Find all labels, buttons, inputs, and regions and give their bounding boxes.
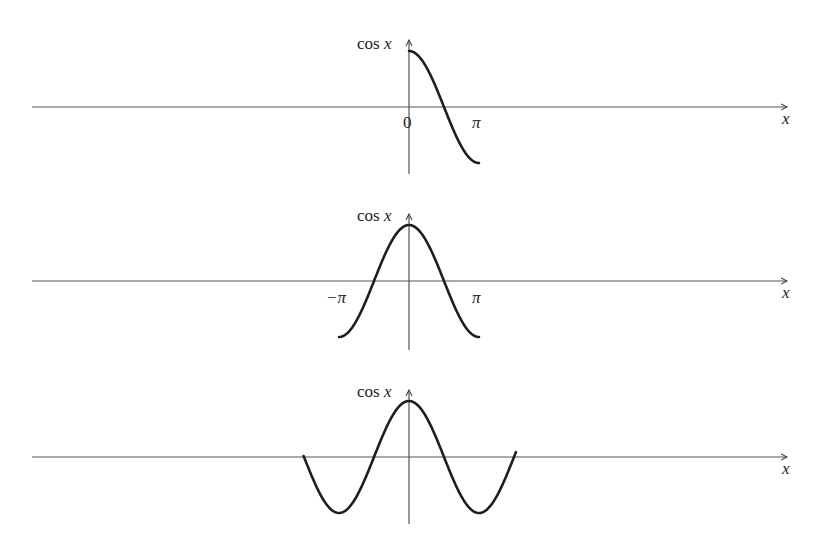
cosine-figure: cos x x 0 π cos x x −π π cos x x [0,0,828,550]
tick-label-pi: π [472,288,481,307]
x-axis-label: x [781,283,790,302]
x-axis-label: x [781,109,790,128]
panel-1: cos x x 0 π [32,34,790,174]
y-axis-label: cos x [357,206,392,225]
tick-label-neg-pi: −π [326,288,346,307]
tick-label-zero: 0 [403,113,412,132]
panel-2: cos x x −π π [32,206,790,350]
tick-label-pi: π [472,113,481,132]
y-axis-label: cos x [357,34,392,53]
x-axis-label: x [781,459,790,478]
y-axis-label: cos x [357,382,392,401]
panel-3: cos x x [32,382,790,524]
